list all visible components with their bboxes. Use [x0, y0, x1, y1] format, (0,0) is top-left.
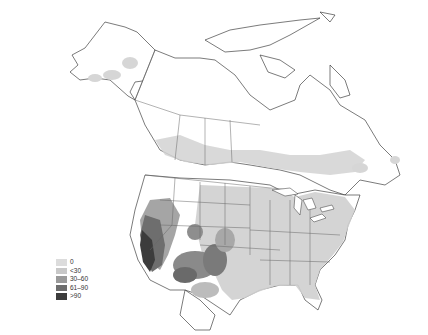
legend-swatch [56, 285, 67, 292]
legend-label: 0 [70, 259, 74, 266]
legend-label: 61–90 [70, 285, 88, 292]
legend-label: 30–60 [70, 276, 88, 283]
legend-swatch [56, 259, 67, 266]
legend-swatch [56, 276, 67, 283]
legend-item-0: 0 [56, 258, 88, 267]
legend-item-gt90: >90 [56, 292, 88, 301]
legend-swatch [56, 293, 67, 300]
legend-label: <30 [70, 268, 81, 275]
legend-item-30-60: 30–60 [56, 275, 88, 284]
legend-label: >90 [70, 293, 81, 300]
map-legend: 0 <30 30–60 61–90 >90 [56, 258, 88, 301]
legend-item-lt30: <30 [56, 267, 88, 276]
legend-swatch [56, 268, 67, 275]
legend-item-61-90: 61–90 [56, 284, 88, 293]
